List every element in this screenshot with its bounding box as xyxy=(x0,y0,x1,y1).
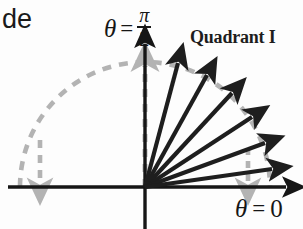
angle-rays-figure: de θ = π 2 Quadrant I θ = 0 xyxy=(0,0,303,229)
quadrant-label: Quadrant I xyxy=(190,28,276,46)
pi-over-two-fraction: π 2 xyxy=(137,5,151,49)
theta-symbol: θ xyxy=(104,16,116,41)
fraction-numerator-pi: π xyxy=(137,5,151,26)
equals-sign: = xyxy=(120,17,133,40)
text-fragment-de: de xyxy=(2,6,32,33)
theta-symbol: θ xyxy=(235,196,247,221)
y-axis-angle-label: θ = π 2 xyxy=(104,6,151,50)
x-axis-angle-label: θ = 0 xyxy=(235,196,283,221)
equals-sign: = xyxy=(252,197,265,220)
fraction-denominator-two: 2 xyxy=(137,28,151,49)
angle-value-zero: 0 xyxy=(270,196,283,221)
